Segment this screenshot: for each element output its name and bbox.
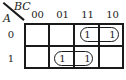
col-label-10: 10 — [100, 9, 125, 20]
col-label-00: 00 — [25, 9, 50, 20]
col-label-01: 01 — [50, 9, 75, 20]
row-variable-label: A — [3, 13, 11, 24]
row-label-0: 0 — [6, 29, 16, 40]
group-loop-row0 — [80, 27, 119, 42]
col-label-11: 11 — [75, 9, 100, 20]
grid-divider — [24, 45, 124, 47]
group-loop-row1 — [54, 51, 93, 66]
row-label-1: 1 — [6, 53, 16, 64]
